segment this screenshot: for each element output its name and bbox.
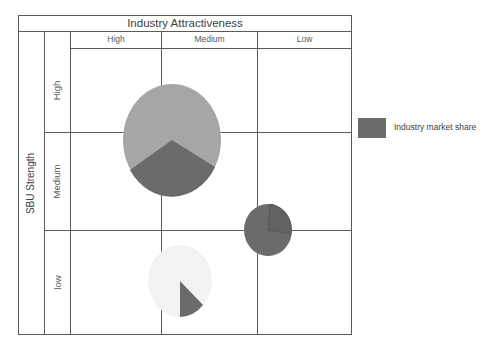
pie-sbu-3 <box>148 245 212 317</box>
pie-sbu-2-share-slice <box>268 204 291 234</box>
legend-swatch <box>358 118 386 138</box>
legend-label: Industry market share <box>394 120 476 134</box>
pie-bubbles <box>0 0 490 350</box>
pie-sbu-2 <box>244 204 292 256</box>
pie-sbu-1 <box>123 84 221 197</box>
